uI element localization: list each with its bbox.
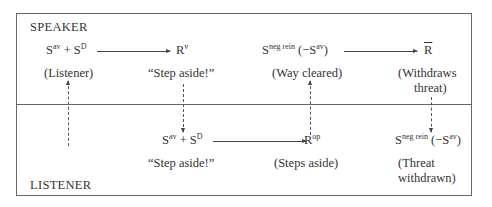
listener-caption-steps-aside: (Steps aside): [274, 156, 338, 170]
speaker-caption-withdraws: (Withdraws: [398, 66, 457, 80]
speaker-neg-rein-node: Sneg rein (−Sav): [262, 43, 328, 57]
speaker-stimulus-node: Sav + SD: [46, 43, 87, 57]
listener-caption-threat: (Threat: [398, 156, 435, 170]
arrow-speaker-2: [344, 51, 417, 52]
listener-caption-step-aside: “Step aside!”: [148, 156, 214, 170]
listener-neg-rein-node: Sneg rein (−Sav): [395, 133, 461, 147]
arrow-listener-1: [213, 141, 306, 142]
speaker-caption-threat: threat): [414, 81, 447, 95]
listener-label: LISTENER: [30, 178, 91, 193]
dashed-arrow-up-listener: [68, 81, 69, 146]
speaker-response-node: Rv: [176, 43, 188, 57]
listener-caption-withdrawn: withdrawn): [398, 171, 456, 185]
speaker-caption-way-cleared: (Way cleared): [272, 66, 342, 80]
speaker-label: SPEAKER: [30, 20, 88, 35]
dashed-arrow-down-threat: [431, 97, 432, 132]
dashed-arrow-up-way-cleared: [310, 81, 311, 135]
listener-response-node: Rop: [304, 133, 320, 147]
speaker-listener-divider: [16, 104, 472, 105]
arrow-speaker-1: [97, 51, 170, 52]
speaker-caption-listener: (Listener): [44, 66, 93, 80]
speaker-caption-step-aside: “Step aside!”: [148, 66, 214, 80]
listener-stimulus-node: Sav + SD: [162, 133, 203, 147]
speaker-withdraw-node: R: [424, 43, 432, 57]
dashed-arrow-down-step-aside: [183, 84, 184, 132]
